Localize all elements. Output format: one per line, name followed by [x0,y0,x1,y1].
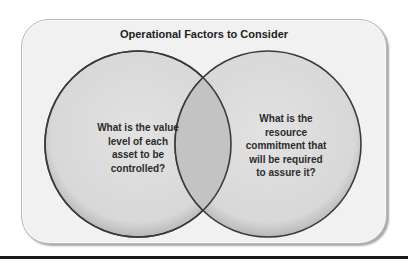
label-line: asset to be [93,148,183,162]
label-line: level of each [93,135,183,149]
label-line: commitment that [236,139,336,153]
label-line: will be required [236,153,336,167]
left-circle-label: What is the value level of each asset to… [93,121,183,175]
right-circle-label: What is the resource commitment that wil… [236,112,336,180]
venn-diagram [0,0,408,272]
label-line: to assure it? [236,166,336,180]
label-line: What is the [236,112,336,126]
label-line: What is the value [93,121,183,135]
label-line: controlled? [93,162,183,176]
label-line: resource [236,126,336,140]
bottom-divider [0,256,408,259]
diagram-title: Operational Factors to Consider [21,28,387,40]
